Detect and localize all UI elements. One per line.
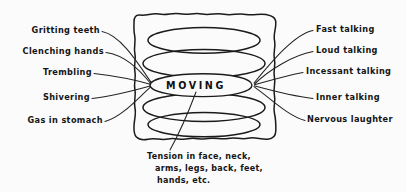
label-inner-talking: Inner talking <box>316 93 380 102</box>
right-leader-lines <box>254 31 313 121</box>
label-incessant-talking: Incessant talking <box>306 67 391 76</box>
leader-trembling <box>94 74 151 85</box>
moving-center-diagram: MOVING Gritting teeth Clenching hands Tr… <box>0 0 406 192</box>
ring-bottom-outer <box>148 113 260 137</box>
caption-tension-line-2: arms, legs, back, feet, <box>155 164 263 174</box>
label-loud-talking: Loud talking <box>316 46 378 55</box>
caption-tension-line-3: hands, etc. <box>157 176 210 186</box>
label-gritting-teeth: Gritting teeth <box>32 26 100 35</box>
label-gas-in-stomach: Gas in stomach <box>27 116 103 125</box>
leader-shivering <box>92 86 151 99</box>
leader-fast-talking <box>254 31 313 84</box>
label-nervous-laughter: Nervous laughter <box>307 115 393 124</box>
label-fast-talking: Fast talking <box>316 25 375 34</box>
label-shivering: Shivering <box>43 93 90 102</box>
center-label-moving: MOVING <box>166 80 226 91</box>
leader-inner-talking <box>255 86 314 99</box>
caption-tension-line-1: Tension in face, neck, <box>147 152 251 162</box>
label-trembling: Trembling <box>43 68 92 77</box>
label-clenching-hands: Clenching hands <box>23 47 104 56</box>
